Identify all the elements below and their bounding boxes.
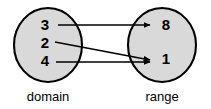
domain-element-2: 2 xyxy=(41,34,49,51)
domain-element-3: 3 xyxy=(41,16,49,33)
mapping-diagram: 3 2 4 8 1 domain range xyxy=(0,0,211,109)
range-element-1: 1 xyxy=(162,50,170,67)
mapping-diagram-canvas: 3 2 4 8 1 domain range xyxy=(0,0,211,109)
domain-element-4: 4 xyxy=(41,52,50,69)
range-caption: range xyxy=(145,89,178,104)
domain-caption: domain xyxy=(27,89,70,104)
range-element-8: 8 xyxy=(162,16,170,33)
